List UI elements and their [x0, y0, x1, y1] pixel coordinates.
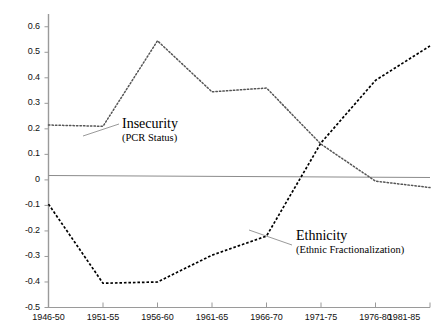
x-tick-label: 1956-60	[131, 312, 185, 322]
line-chart: 0.60.50.40.30.20.10-0.1-0.2-0.3-0.4-0.5 …	[0, 0, 433, 335]
y-tick-label: -0.2	[14, 225, 40, 235]
annotation-ethnicity-subtitle: (Ethnic Fractionalization)	[296, 243, 404, 256]
x-tick-label: 1946-50	[22, 312, 76, 322]
x-tick-label: 1951-55	[76, 312, 130, 322]
y-tick-label: 0.2	[14, 123, 40, 133]
annotation-insecurity-title: Insecurity	[122, 116, 178, 131]
y-tick-label: -0.1	[14, 199, 40, 209]
y-tick-label: -0.3	[14, 250, 40, 260]
y-tick-label: 0.6	[14, 21, 40, 31]
annotation-insecurity-subtitle: (PCR Status)	[122, 131, 178, 144]
x-axis-ticks	[49, 303, 431, 308]
x-tick-label: 1966-70	[240, 312, 294, 322]
annotation-insecurity: Insecurity (PCR Status)	[122, 116, 178, 144]
x-tick-label: 1981-85	[377, 312, 431, 322]
y-tick-label: 0	[14, 174, 40, 184]
x-tick-label: 1961-65	[185, 312, 239, 322]
leader-line-ethnicity	[249, 230, 292, 245]
y-tick-label: 0.1	[14, 148, 40, 158]
annotation-ethnicity: Ethnicity (Ethnic Fractionalization)	[296, 228, 404, 256]
y-tick-label: 0.4	[14, 72, 40, 82]
y-tick-label: 0.3	[14, 97, 40, 107]
x-tick-label: 1971-75	[294, 312, 348, 322]
series-line-insecurity	[49, 41, 431, 188]
y-tick-label: -0.4	[14, 276, 40, 286]
annotation-ethnicity-title: Ethnicity	[296, 228, 404, 243]
plot-area	[0, 0, 433, 335]
y-tick-label: -0.5	[14, 302, 40, 312]
zero-reference-line	[49, 176, 431, 178]
y-tick-label: 0.5	[14, 46, 40, 56]
